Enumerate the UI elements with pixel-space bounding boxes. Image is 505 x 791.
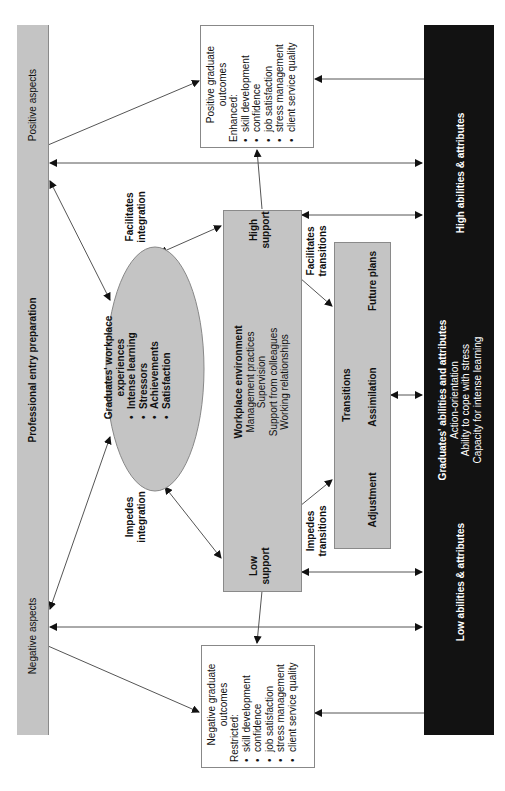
workplace-item: Supervision [256, 312, 268, 452]
list-item: Achievements [149, 310, 161, 419]
list-item: Satisfaction [161, 310, 173, 419]
list-item: job satisfaction [264, 647, 276, 762]
ability-item: Capacity for intense learning [472, 315, 484, 485]
facilitates-integration-line2: integration [136, 182, 148, 252]
high-support-line1: High [248, 210, 260, 250]
low-support-line1: Low [248, 546, 260, 586]
list-item: skill development [240, 27, 252, 142]
arrow-ellipse-low-support [165, 487, 221, 558]
high-support-label: High support [248, 210, 271, 250]
list-item: confidence [251, 27, 263, 142]
positive-outcomes-title-2: outcomes [217, 27, 229, 142]
list-item: client service quality [287, 647, 299, 762]
negative-outcomes-content: Negative graduate outcomes Restricted: s… [206, 647, 298, 762]
transition-stage-adjustment: Adjustment [367, 460, 379, 540]
professional-entry-preparation-label: Professional entry preparation [27, 280, 39, 460]
transition-stage-future-plans: Future plans [367, 246, 379, 316]
facilitates-transitions-line2: transitions [317, 221, 329, 281]
list-item: Intense learning [126, 310, 138, 419]
experiences-title-1: Graduates' workplace [103, 310, 115, 425]
low-support-line2: support [260, 546, 272, 586]
low-abilities-label: Low abilities & attributes [455, 507, 467, 657]
impedes-integration-line1: Impedes [124, 482, 136, 552]
impedes-transitions-line2: transitions [317, 501, 329, 561]
arrow-high-support-to-positive-outcomes [257, 150, 262, 209]
workplace-item: Working relationships [279, 312, 291, 452]
high-abilities-label: High abilities & attributes [455, 98, 467, 248]
workplace-experiences-content: Graduates' workplace experiences Intense… [103, 310, 172, 425]
experiences-list: Intense learning Stressors Achievements … [126, 310, 172, 419]
facilitates-transitions-line1: Facilitates [305, 221, 317, 281]
positive-outcomes-list: skill development confidence job satisfa… [240, 27, 298, 142]
workplace-environment-content: Workplace environment Management practic… [233, 312, 291, 452]
low-support-label: Low support [248, 546, 271, 586]
arrow-positive-aspects-ellipse [50, 181, 110, 300]
ability-item: Ability to cope with stress [460, 315, 472, 485]
workplace-item: Support from colleagues [268, 312, 280, 452]
list-item: Stressors [138, 310, 150, 419]
abilities-attributes-block: Graduates' abilities and attributes Acti… [437, 315, 483, 485]
experiences-title-2: experiences [115, 310, 127, 425]
impedes-integration-label: Impedes integration [124, 482, 147, 552]
impedes-integration-line2: integration [136, 482, 148, 552]
positive-outcomes-subtitle: Enhanced: [228, 27, 240, 142]
positive-aspects-label: Positive aspects [27, 40, 39, 170]
transition-stage-assimilation: Assimilation [367, 357, 379, 437]
list-item: stress management [274, 27, 286, 142]
abilities-title: Graduates' abilities and attributes [437, 315, 449, 485]
positive-outcomes-title-1: Positive graduate [205, 27, 217, 142]
facilitates-integration-line1: Facilitates [124, 182, 136, 252]
arrow-low-support-to-negative-outcomes [257, 591, 262, 643]
arrow-negative-aspects-ellipse [50, 437, 110, 609]
list-item: stress management [275, 647, 287, 762]
negative-outcomes-list: skill development confidence job satisfa… [241, 647, 299, 762]
transitions-title: Transitions [341, 345, 353, 445]
impedes-transitions-label: Impedes transitions [305, 501, 328, 561]
negative-outcomes-subtitle: Restricted: [229, 647, 241, 762]
workplace-item: Management practices [245, 312, 257, 452]
high-support-line2: support [260, 210, 272, 250]
arrow-positive-aspects-to-outcomes [48, 81, 199, 145]
negative-outcomes-title-1: Negative graduate [206, 647, 218, 762]
negative-outcomes-title-2: outcomes [218, 647, 230, 762]
list-item: client service quality [286, 27, 298, 142]
facilitates-transitions-label: Facilitates transitions [305, 221, 328, 281]
arrow-facilitates-transitions [300, 278, 332, 306]
arrow-ellipse-high-support [160, 226, 221, 253]
arrow-negative-aspects-to-outcomes [48, 646, 199, 712]
list-item: skill development [241, 647, 253, 762]
negative-aspects-label: Negative aspects [27, 576, 39, 696]
facilitates-integration-label: Facilitates integration [124, 182, 147, 252]
positive-outcomes-content: Positive graduate outcomes Enhanced: ski… [205, 27, 297, 142]
impedes-transitions-line1: Impedes [305, 501, 317, 561]
list-item: job satisfaction [263, 27, 275, 142]
workplace-title: Workplace environment [233, 312, 245, 452]
list-item: confidence [252, 647, 264, 762]
ability-item: Action-orientation [449, 315, 461, 485]
